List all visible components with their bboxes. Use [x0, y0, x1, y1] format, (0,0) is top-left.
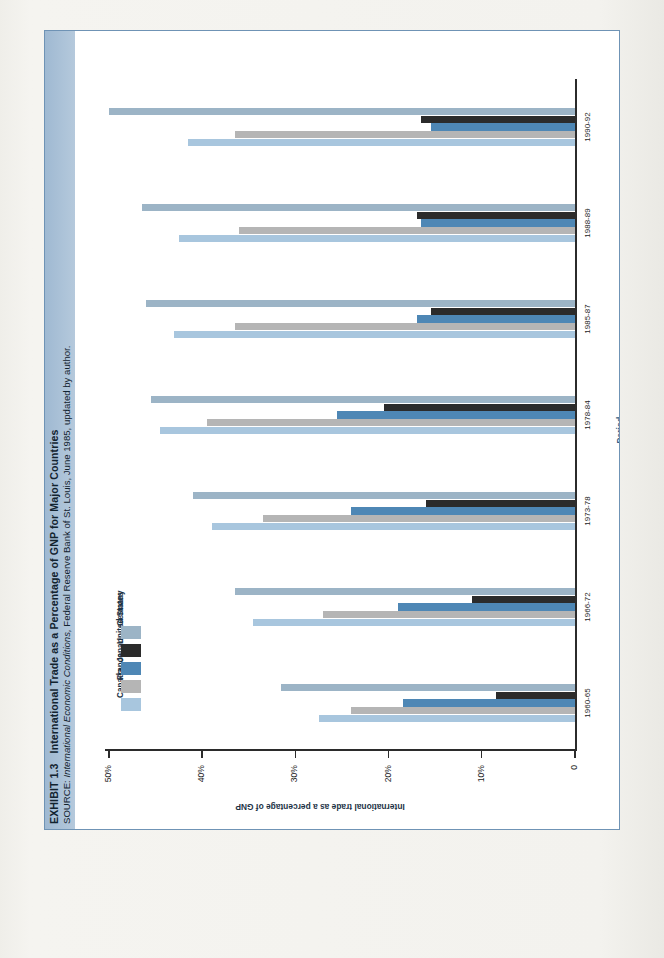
bar — [351, 707, 575, 714]
exhibit-title-text: EXHIBIT 1.3 International Trade as a Per… — [45, 30, 75, 830]
bar — [384, 404, 575, 411]
legend-label: Germany — [116, 591, 125, 627]
bar — [319, 715, 575, 722]
bar — [263, 515, 575, 522]
exhibit-figure: EXHIBIT 1.3 International Trade as a Per… — [44, 30, 620, 830]
legend-swatch — [121, 644, 141, 657]
y-axis-line — [105, 749, 576, 751]
y-axis-tick — [388, 751, 389, 758]
bar — [337, 411, 575, 418]
x-axis-category-label: 1960-65 — [583, 688, 592, 717]
bar — [207, 419, 575, 426]
bar — [421, 219, 575, 226]
y-axis-tick-label: 10% — [476, 765, 486, 782]
y-axis-tick-label: 30% — [289, 765, 299, 782]
x-axis-category-label: 1978-84 — [583, 400, 592, 429]
exhibit-title: International Trade as a Percentage of G… — [48, 429, 60, 753]
y-axis-tick-label: 40% — [196, 765, 206, 782]
source-prefix: SOURCE: — [61, 780, 72, 824]
bar — [253, 619, 575, 626]
bar — [146, 300, 575, 307]
y-axis-tick-label: 20% — [383, 765, 393, 782]
x-axis-category-label: 1990-92 — [583, 112, 592, 141]
bar — [160, 427, 575, 434]
legend-swatch — [121, 626, 141, 639]
bar — [472, 596, 575, 603]
bar — [142, 204, 575, 211]
bar — [323, 611, 575, 618]
legend-swatch — [121, 662, 141, 675]
legend-swatch — [121, 680, 141, 693]
bar — [398, 603, 575, 610]
bar — [417, 315, 575, 322]
source-rest: Federal Reserve Bank of St. Louis, June … — [61, 346, 72, 627]
page-background: EXHIBIT 1.3 International Trade as a Per… — [0, 0, 664, 958]
x-axis-title: Period — [615, 31, 620, 829]
bar — [235, 588, 575, 595]
exhibit-heading: EXHIBIT 1.3 International Trade as a Per… — [48, 30, 60, 824]
bar — [235, 323, 575, 330]
exhibit-source: SOURCE: International Economic Condition… — [61, 30, 72, 824]
bar — [417, 212, 575, 219]
x-axis-category-label: 1988-89 — [583, 208, 592, 237]
bar — [235, 131, 575, 138]
bar — [151, 396, 575, 403]
bar — [174, 331, 575, 338]
x-axis-category-label: 1966-72 — [583, 592, 592, 621]
exhibit-number: EXHIBIT 1.3 — [48, 763, 60, 824]
bar — [212, 523, 575, 530]
bar-chart: 010%20%30%40%50% 1960-651966-721973-7819… — [75, 31, 620, 829]
y-axis-tick — [108, 751, 109, 758]
bar — [431, 123, 575, 130]
bar — [431, 308, 575, 315]
bar — [239, 227, 575, 234]
x-axis-category-label: 1973-78 — [583, 496, 592, 525]
bar — [281, 684, 575, 691]
y-axis-tick — [295, 751, 296, 758]
legend-swatch — [121, 698, 141, 711]
y-axis-tick — [481, 751, 482, 758]
bar — [109, 108, 575, 115]
y-axis-tick-label: 50% — [103, 765, 113, 782]
bar — [351, 507, 575, 514]
y-axis-tick — [201, 751, 202, 758]
bar — [179, 235, 575, 242]
plot-wrapper: 010%20%30%40%50% 1960-651966-721973-7819… — [75, 31, 620, 829]
bar — [426, 500, 575, 507]
y-axis-title: International trade as a percentage of G… — [150, 802, 490, 812]
source-publication: International Economic Conditions, — [61, 629, 72, 777]
x-axis-line — [575, 79, 577, 751]
x-axis-category-label: 1985-87 — [583, 304, 592, 333]
y-axis-tick — [574, 751, 575, 758]
y-axis-tick-label: 0 — [569, 765, 579, 770]
bar — [496, 692, 575, 699]
bar — [403, 699, 575, 706]
bar — [421, 116, 575, 123]
bar — [193, 492, 575, 499]
bar — [188, 139, 575, 146]
